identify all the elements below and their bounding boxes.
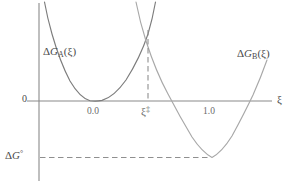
curve-b-g: G	[244, 47, 252, 59]
delta-g-standard-label: ΔG°	[5, 149, 23, 161]
transition-state-dagger: ‡	[146, 105, 150, 114]
curve-b-argument: (ξ)	[257, 47, 269, 59]
delta-g-standard-degree: °	[20, 149, 23, 158]
free-energy-diagram: ΔGA(ξ) ΔGB(ξ) 0 ΔG° 0.0 ξ‡ 1.0 ξ	[0, 0, 305, 188]
curve-a-argument: (ξ)	[64, 45, 76, 57]
x-tick-label-zero: 0.0	[87, 106, 99, 116]
curve-a-label: ΔGA(ξ)	[43, 45, 76, 59]
curve-b-label: ΔGB(ξ)	[237, 47, 270, 61]
y-axis-origin-label: 0	[22, 93, 27, 104]
x-tick-label-transition-state: ξ‡	[141, 105, 150, 117]
x-axis-label: ξ	[277, 93, 282, 105]
curve-a-g: G	[50, 45, 58, 57]
chart-canvas	[0, 0, 305, 188]
x-tick-label-one: 1.0	[203, 106, 215, 116]
curve-delta-g-b	[136, 2, 267, 158]
delta-g-standard-g: G	[12, 149, 20, 161]
